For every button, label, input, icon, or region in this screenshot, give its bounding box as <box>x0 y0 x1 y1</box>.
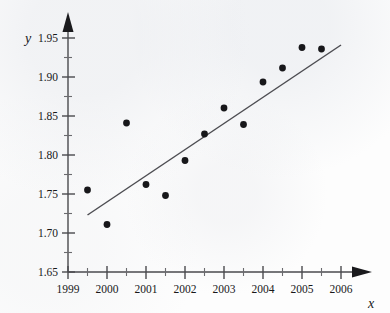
data-point <box>201 131 208 138</box>
data-point <box>260 79 267 86</box>
data-point <box>318 46 325 53</box>
data-point <box>240 121 247 128</box>
x-tick-label: 2001 <box>135 283 158 295</box>
x-axis <box>68 267 372 278</box>
data-point <box>182 157 189 164</box>
y-tick-label: 1.90 <box>38 71 58 83</box>
data-point <box>162 192 169 199</box>
data-points <box>84 44 325 228</box>
y-axis-arrow-icon <box>63 12 74 32</box>
data-point <box>221 105 228 112</box>
data-point <box>299 44 306 51</box>
chart-svg: 1.65 1.70 1.75 1.80 1.85 1.90 1.95 <box>0 0 390 313</box>
data-point <box>279 65 286 72</box>
y-tick-label: 1.95 <box>38 32 58 44</box>
x-axis-arrow-icon <box>352 267 372 278</box>
y-tick-label: 1.80 <box>38 149 58 161</box>
y-tick-label: 1.65 <box>38 266 58 278</box>
y-axis-label: y <box>23 31 32 46</box>
x-tick-label: 2003 <box>213 283 236 295</box>
x-axis-tick-labels: 1999 2000 2001 2002 2003 2004 2005 2006 <box>57 283 353 295</box>
x-tick-label: 2006 <box>330 283 353 295</box>
trend-line <box>88 45 342 215</box>
x-tick-label: 1999 <box>57 283 80 295</box>
x-tick-label: 2002 <box>174 283 197 295</box>
data-point <box>84 187 91 194</box>
x-tick-label: 2005 <box>291 283 314 295</box>
x-tick-label: 2004 <box>252 283 275 295</box>
y-axis-tick-labels: 1.65 1.70 1.75 1.80 1.85 1.90 1.95 <box>38 32 58 278</box>
scatter-plot-figure: 1.65 1.70 1.75 1.80 1.85 1.90 1.95 <box>0 0 390 313</box>
data-point <box>104 221 111 228</box>
y-tick-label: 1.70 <box>38 227 58 239</box>
x-tick-label: 2000 <box>96 283 119 295</box>
y-tick-label: 1.85 <box>38 110 58 122</box>
data-point <box>143 181 150 188</box>
x-axis-label: x <box>367 296 375 311</box>
data-point <box>123 120 130 127</box>
y-tick-label: 1.75 <box>38 188 58 200</box>
